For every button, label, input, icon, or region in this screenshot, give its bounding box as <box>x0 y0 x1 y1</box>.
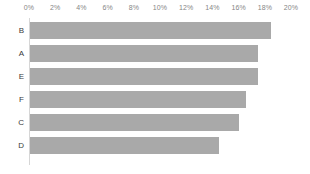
bar-row: F <box>0 91 310 108</box>
category-label: E <box>19 68 24 85</box>
x-tick-label: 4% <box>76 3 86 12</box>
category-label: B <box>19 22 24 39</box>
x-tick-label: 16% <box>231 3 245 12</box>
category-label: F <box>19 91 24 108</box>
x-tick-label: 12% <box>179 3 193 12</box>
x-tick-label: 2% <box>50 3 60 12</box>
plot-area: BAEFCD <box>0 18 310 168</box>
category-label: C <box>18 114 24 131</box>
bar <box>30 91 246 108</box>
bar-row: E <box>0 68 310 85</box>
x-tick-label: 10% <box>153 3 167 12</box>
x-tick-label: 18% <box>258 3 272 12</box>
bar-row: A <box>0 45 310 62</box>
bar <box>30 22 271 39</box>
bar <box>30 68 258 85</box>
bar <box>30 114 239 131</box>
bar-row: B <box>0 22 310 39</box>
x-axis: 0%2%4%6%8%10%12%14%16%18%20% <box>0 0 310 18</box>
x-tick-label: 8% <box>129 3 139 12</box>
x-tick-label: 6% <box>102 3 112 12</box>
x-tick-label: 0% <box>24 3 34 12</box>
bar-chart: 0%2%4%6%8%10%12%14%16%18%20% BAEFCD <box>0 0 310 174</box>
x-tick-label: 14% <box>205 3 219 12</box>
bar-row: C <box>0 114 310 131</box>
bar <box>30 45 258 62</box>
category-label: A <box>19 45 24 62</box>
x-tick-label: 20% <box>284 3 298 12</box>
category-label: D <box>18 137 24 154</box>
bar <box>30 137 219 154</box>
bar-row: D <box>0 137 310 154</box>
